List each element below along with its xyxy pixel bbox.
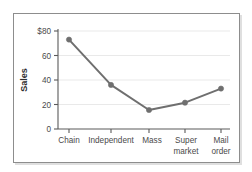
data-point-mass — [146, 107, 151, 112]
data-point-independent — [108, 82, 113, 87]
data-point-chain — [66, 37, 71, 42]
chart-figure: $80 60 40 20 0 Sales Chain Independent — [0, 0, 252, 172]
y-tick-label-0: 0 — [46, 125, 51, 134]
gridlines — [58, 31, 230, 105]
y-tick-marks — [54, 31, 58, 129]
series-line-sales — [69, 40, 221, 110]
series-markers-sales — [66, 37, 223, 113]
plot-area: $80 60 40 20 0 Sales Chain Independent — [14, 14, 241, 164]
x-category-label-chain: Chain — [58, 136, 80, 145]
x-tick-marks — [69, 129, 221, 133]
y-tick-label-60: 60 — [42, 52, 52, 61]
y-tick-label-20: 20 — [42, 101, 52, 110]
x-category-label-independent: Independent — [88, 136, 134, 145]
x-category-label-mail-order-line2: order — [211, 147, 230, 156]
data-point-mail-order — [218, 86, 223, 91]
x-category-label-mass: Mass — [142, 136, 162, 145]
y-tick-label-80: $80 — [37, 27, 51, 36]
x-category-label-mail-order-line1: Mail — [213, 136, 228, 145]
y-tick-label-40: 40 — [42, 76, 52, 85]
chart-frame-box: $80 60 40 20 0 Sales Chain Independent — [13, 13, 240, 163]
y-axis-title: Sales — [19, 68, 29, 92]
data-point-super-market — [182, 100, 187, 105]
x-category-label-super-market-line1: Super — [175, 136, 197, 145]
x-category-label-super-market-line2: market — [173, 147, 199, 156]
line-chart-svg: $80 60 40 20 0 Sales Chain Independent — [14, 14, 241, 164]
